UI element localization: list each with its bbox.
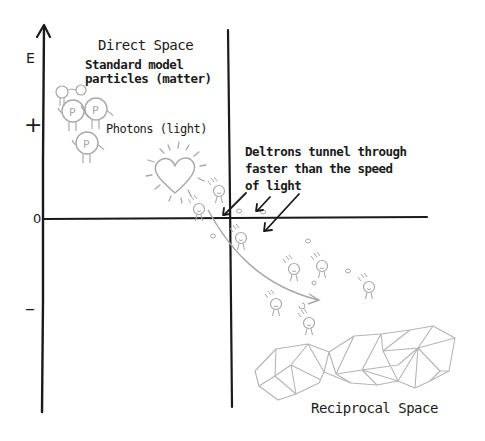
direct-space-title: Direct Space bbox=[98, 37, 193, 53]
photons-label: Photons (light) bbox=[106, 122, 207, 136]
deltron-particles bbox=[188, 177, 375, 335]
energy-axis-label: E bbox=[26, 50, 35, 66]
axis-tick-positive: + bbox=[24, 112, 42, 137]
deltrons-label: Deltrons tunnel through faster than the … bbox=[245, 143, 407, 194]
matter-label: Standard model particles (matter) bbox=[85, 58, 211, 86]
diagram-canvas: P bbox=[0, 0, 485, 441]
matter-particles bbox=[56, 85, 113, 163]
deltrons-label-line-1: Deltrons tunnel through bbox=[245, 143, 407, 160]
axis-tick-negative: – bbox=[25, 296, 35, 320]
deltrons-label-line-2: faster than the speed bbox=[245, 160, 407, 177]
axis-tick-zero: 0 bbox=[33, 211, 41, 226]
deltrons-label-line-3: of light bbox=[245, 177, 407, 194]
reciprocal-lattice-mesh bbox=[255, 326, 455, 400]
heart-icon bbox=[146, 142, 206, 203]
zero-energy-line bbox=[44, 217, 427, 219]
reciprocal-space-title: Reciprocal Space bbox=[311, 400, 438, 416]
matter-label-line-1: Standard model bbox=[85, 58, 211, 72]
matter-label-line-2: particles (matter) bbox=[85, 72, 211, 86]
